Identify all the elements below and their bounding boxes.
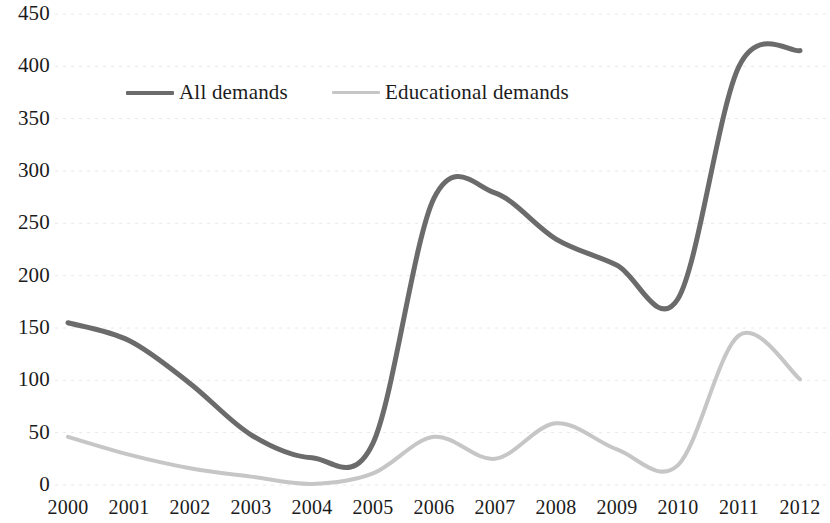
x-axis-tick-label: 2003 (216, 495, 286, 519)
legend-label-all-demands: All demands (179, 82, 288, 103)
chart-legend: All demands Educational demands (126, 82, 569, 103)
y-axis-tick-label: 350 (2, 108, 50, 129)
legend-line-swatch-icon (332, 91, 380, 94)
chart-plot-area (0, 0, 830, 523)
series-paths (68, 44, 800, 484)
y-axis-tick-label: 450 (2, 3, 50, 24)
x-axis-tick-label: 2010 (643, 495, 713, 519)
x-axis-tick-label: 2009 (582, 495, 652, 519)
y-axis-tick-label: 400 (2, 55, 50, 76)
y-axis-tick-label: 150 (2, 317, 50, 338)
y-axis-tick-label: 0 (2, 474, 50, 495)
series-line-all-demands (68, 44, 800, 468)
legend-label-educational-demands: Educational demands (385, 82, 569, 103)
y-axis-tick-label: 100 (2, 369, 50, 390)
x-axis-tick-label: 2007 (460, 495, 530, 519)
x-axis-tick-label: 2006 (399, 495, 469, 519)
x-axis-tick-label: 2002 (155, 495, 225, 519)
y-axis-tick-label: 300 (2, 160, 50, 181)
series-line-educational-demands (68, 333, 800, 484)
x-axis-tick-label: 2001 (94, 495, 164, 519)
legend-line-swatch-icon (126, 91, 174, 95)
y-axis: 450400350300250200150100500 (0, 0, 50, 523)
x-axis-tick-label: 2012 (765, 495, 830, 519)
x-axis: 2000200120022003200420052006200720082009… (0, 495, 830, 523)
x-axis-tick-label: 2000 (33, 495, 103, 519)
x-axis-tick-label: 2004 (277, 495, 347, 519)
x-axis-tick-label: 2005 (338, 495, 408, 519)
legend-item-educational-demands: Educational demands (332, 82, 569, 103)
legend-item-all-demands: All demands (126, 82, 288, 103)
line-chart: 450400350300250200150100500 200020012002… (0, 0, 830, 523)
y-axis-tick-label: 200 (2, 265, 50, 286)
y-axis-tick-label: 50 (2, 422, 50, 443)
x-axis-tick-label: 2008 (521, 495, 591, 519)
x-axis-tick-label: 2011 (704, 495, 774, 519)
y-axis-tick-label: 250 (2, 212, 50, 233)
